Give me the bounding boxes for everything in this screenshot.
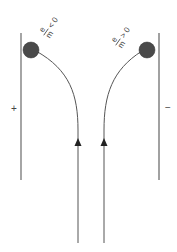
right-trajectory bbox=[104, 51, 142, 243]
plus-sign: + bbox=[11, 103, 17, 114]
right-arrow-up-icon bbox=[101, 138, 108, 146]
left-label-relation: < 0 bbox=[46, 15, 60, 30]
right-particle-label: e m > 0 bbox=[108, 22, 135, 50]
right-label-denominator: m bbox=[116, 39, 127, 50]
right-label-relation: > 0 bbox=[118, 25, 132, 40]
left-arrow-up-icon bbox=[75, 138, 82, 146]
left-particle-ball bbox=[23, 42, 39, 58]
diagram-canvas: + − e m < 0 e m > 0 bbox=[0, 0, 177, 252]
left-particle-label: e m < 0 bbox=[36, 12, 63, 40]
left-trajectory bbox=[36, 51, 78, 243]
right-particle-ball bbox=[139, 42, 155, 58]
left-label-denominator: m bbox=[44, 29, 55, 40]
minus-sign: − bbox=[165, 102, 171, 113]
